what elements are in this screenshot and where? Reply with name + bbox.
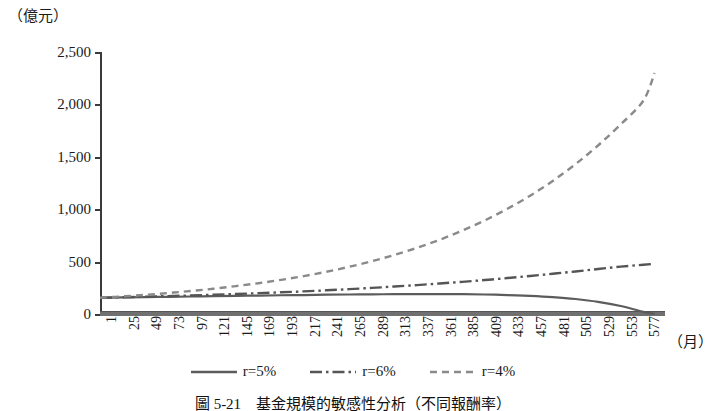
x-tick-label: 361 xyxy=(445,316,459,337)
x-tick-label: 1 xyxy=(105,316,119,323)
x-tick-label: 481 xyxy=(558,316,572,337)
legend-swatch-r4 xyxy=(430,366,476,378)
x-tick-label: 49 xyxy=(150,316,164,330)
x-tick-label: 25 xyxy=(128,316,142,330)
x-tick-label: 289 xyxy=(377,316,391,337)
series-line-r5 xyxy=(100,294,655,314)
figure-caption: 圖 5-21 基金規模的敏感性分析（不同報酬率） xyxy=(0,392,706,411)
chart-legend: r=5%r=6%r=4% xyxy=(0,364,706,379)
x-tick-label: 433 xyxy=(512,316,526,337)
legend-swatch-r5 xyxy=(191,366,237,378)
legend-swatch-r6 xyxy=(310,366,356,378)
x-axis-unit-label: （月） xyxy=(668,330,706,351)
legend-item: r=5% xyxy=(191,364,276,379)
x-tick-label: 145 xyxy=(241,316,255,337)
y-tick-label: 1,500 xyxy=(57,148,91,165)
legend-label: r=6% xyxy=(362,364,395,379)
legend-label: r=4% xyxy=(482,364,515,379)
x-tick-label: 529 xyxy=(603,316,617,337)
x-tick-label: 169 xyxy=(263,316,277,337)
plot-area: 05001,0001,5002,0002,500 xyxy=(100,52,665,314)
x-tick-label: 313 xyxy=(399,316,413,337)
y-axis-unit-label: （億元） xyxy=(8,4,68,25)
x-tick-label: 337 xyxy=(422,316,436,337)
x-tick-label: 265 xyxy=(354,316,368,337)
x-tick-label: 121 xyxy=(218,316,232,337)
series-lines xyxy=(100,52,665,314)
y-tick-label: 1,000 xyxy=(57,201,91,218)
x-tick-label: 505 xyxy=(580,316,594,337)
x-tick-label: 457 xyxy=(535,316,549,337)
x-tick-label: 97 xyxy=(196,316,210,330)
y-tick-label: 2,500 xyxy=(57,44,91,61)
legend-item: r=4% xyxy=(430,364,515,379)
x-tick-label: 217 xyxy=(309,316,323,337)
legend-label: r=5% xyxy=(243,364,276,379)
y-tick-label: 500 xyxy=(69,253,92,270)
legend-item: r=6% xyxy=(310,364,395,379)
x-tick-label: 193 xyxy=(286,316,300,337)
x-axis-tick-labels: 1254973971211451691932172412652893133373… xyxy=(100,316,665,364)
series-line-r6 xyxy=(100,264,655,298)
chart-figure: （億元） 05001,0001,5002,0002,500 1254973971… xyxy=(0,0,706,411)
y-tick-label: 2,000 xyxy=(57,96,91,113)
x-tick-label: 409 xyxy=(490,316,504,337)
x-tick-label: 577 xyxy=(648,316,662,337)
y-tick-label: 0 xyxy=(84,306,92,323)
x-tick-label: 241 xyxy=(331,316,345,337)
x-tick-label: 385 xyxy=(467,316,481,337)
series-line-r4 xyxy=(100,73,655,298)
x-tick-label: 553 xyxy=(626,316,640,337)
x-tick-label: 73 xyxy=(173,316,187,330)
